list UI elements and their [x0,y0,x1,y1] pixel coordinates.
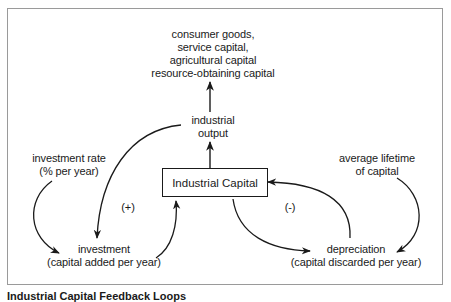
node-industrial-capital: Industrial Capital [162,168,268,197]
industrial-output-line: output [191,127,234,140]
node-average-lifetime: average lifetime of capital [339,152,415,178]
arrow-depreciation-to-capital [268,182,350,238]
investment-rate-line: (% per year) [32,165,106,178]
figure-caption: Industrial Capital Feedback Loops [7,290,186,302]
average-lifetime-line: of capital [339,165,415,178]
depreciation-line: depreciation [291,243,421,256]
node-industrial-output: industrial output [191,114,234,140]
node-investment-rate: investment rate (% per year) [32,152,106,178]
depreciation-line: (capital discarded per year) [291,256,421,269]
investment-line: investment [47,243,161,256]
node-outputs: consumer goods, service capital, agricul… [151,28,274,80]
outputs-line: service capital, [151,41,274,54]
loop-sign-negative: (-) [285,201,296,214]
node-depreciation: depreciation (capital discarded per year… [291,243,421,269]
average-lifetime-line: average lifetime [339,152,415,165]
arrow-lifetime-to-depreciation [397,178,419,252]
industrial-capital-label: Industrial Capital [172,177,258,189]
outputs-line: consumer goods, [151,28,274,41]
node-investment: investment (capital added per year) [47,243,161,269]
industrial-output-line: industrial [191,114,234,127]
outputs-line: resource-obtaining capital [151,67,274,80]
investment-rate-line: investment rate [32,152,106,165]
outputs-line: agricultural capital [151,54,274,67]
investment-line: (capital added per year) [47,256,161,269]
loop-sign-positive: (+) [121,201,134,214]
